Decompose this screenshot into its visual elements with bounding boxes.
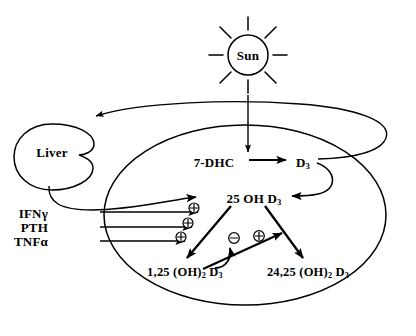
input-label-ifng: IFNγ [19,207,48,220]
node-1-25-oh2-d3-text: 1,25 (OH) [147,265,202,279]
node-24-25-oh2-d3-mid: D [332,265,345,279]
node-25-oh-d3-sub: 3 [277,197,282,207]
input-label-tnfa: TNFα [14,235,48,248]
node-d3-text: D [296,155,306,170]
node-24-25-oh2-d3-text: 24,25 (OH) [267,265,328,279]
node-d3: D3 [296,156,310,170]
arrow-25ohd3-to-2425oh2d3 [265,206,303,258]
input-label-pth: PTH [21,221,48,234]
node-d3-sub: 3 [306,161,311,171]
node-1-25-oh2-d3: 1,25 (OH)2 D3 [147,266,223,280]
node-24-25-oh2-d3: 24,25 (OH)2 D3 [267,266,349,280]
diagram-canvas: Sun Liver 7-DHC D3 25 OH D3 1,25 (OH)2 D… [0,0,416,336]
node-1-25-oh2-d3-mid: D [206,265,219,279]
node-1-25-oh2-d3-sub2: 3 [219,271,223,280]
arrow-liver-to-25ohd3 [49,186,196,210]
node-25-oh-d3-text: 25 OH D [226,191,277,206]
arrow-positive-feedback [203,233,282,269]
sun-label: Sun [237,49,259,62]
node-7-dhc: 7-DHC [194,156,235,169]
arrow-25ohd3-to-125oh2d3 [187,206,231,258]
node-25-oh-d3: 25 OH D3 [226,192,281,206]
node-24-25-oh2-d3-sub2: 3 [345,271,349,280]
liver-label: Liver [36,146,67,159]
